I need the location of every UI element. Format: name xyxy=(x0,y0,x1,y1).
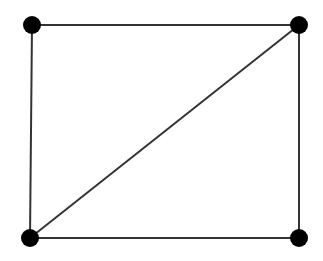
edge-bottom-left-top-left xyxy=(30,25,32,238)
node-bottom-right xyxy=(290,229,308,247)
graph-diagram xyxy=(0,0,323,261)
edge-bottom-left-top-right xyxy=(30,25,299,238)
node-bottom-left xyxy=(21,229,39,247)
node-top-left xyxy=(23,16,41,34)
node-top-right xyxy=(290,16,308,34)
edges-group xyxy=(30,25,299,238)
